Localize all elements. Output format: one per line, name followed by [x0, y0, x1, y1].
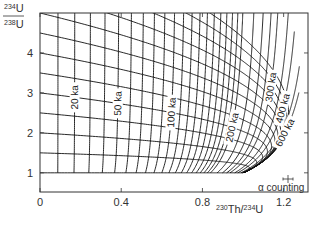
isochron-40ka — [102, 0, 105, 173]
isochron-60ka — [126, 0, 132, 173]
age-label-20ka: 20 ka — [69, 82, 80, 112]
isochron-100ka — [162, 0, 176, 173]
y-axis-label-denominator: 238U — [4, 18, 24, 30]
chart: 00.40.81.21234 20 ka50 ka100 ka200 ka300… — [0, 0, 322, 225]
age-label-300ka: 300 ka — [263, 69, 279, 106]
isochron-90ka — [154, 0, 166, 173]
age-label-text: 100 ka — [165, 97, 178, 128]
y-tick-label: 4 — [27, 47, 33, 59]
age-label-text: 300 ka — [263, 71, 278, 103]
age-label-text: 20 ka — [69, 85, 80, 110]
isochron-70ka — [136, 0, 144, 173]
age-label-100ka: 100 ka — [165, 94, 178, 130]
isochron-80ka — [145, 0, 155, 173]
y-tick-label: 1 — [27, 167, 33, 179]
age-label-50ka: 50 ka — [112, 88, 124, 118]
error-bar-legend: α counting — [258, 175, 304, 193]
x-tick-label: 0.4 — [114, 196, 129, 208]
x-tick-label: 0.8 — [195, 196, 210, 208]
x-tick-label: 1.2 — [276, 196, 291, 208]
y-axis-label-numerator: 234U — [4, 2, 24, 14]
age-label-text: 50 ka — [112, 91, 123, 116]
y-tick-label: 3 — [27, 87, 33, 99]
isochron-120ka — [175, 0, 194, 173]
x-axis-label: 230Th/234U — [216, 203, 263, 215]
x-tick-label: 0 — [37, 196, 43, 208]
y-tick-label: 2 — [27, 127, 33, 139]
age-labels-group: 20 ka50 ka100 ka200 ka300 ka400 ka600 ka — [69, 69, 298, 151]
annotation-alpha-counting: α counting — [258, 182, 304, 193]
isochron-50ka — [115, 0, 120, 173]
